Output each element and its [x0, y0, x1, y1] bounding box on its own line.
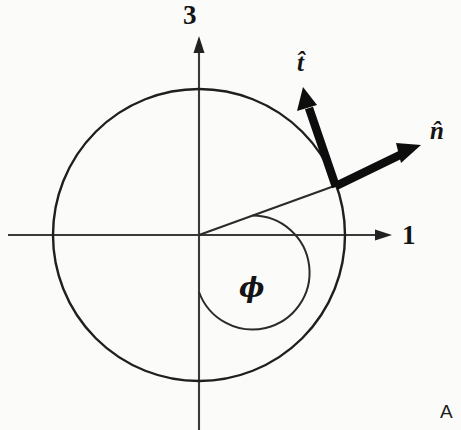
panel-letter-label: A [440, 402, 453, 421]
vector-label-tangent: t̂ [297, 50, 304, 75]
axis-label-horizontal: 1 [402, 222, 416, 249]
figure-canvas [0, 0, 461, 430]
vector-normal [336, 143, 421, 186]
vector-normal-shaft [336, 153, 404, 186]
figure-panel: 3 1 t̂ n̂ ϕ A [0, 0, 461, 430]
axis-horizontal-arrowhead [375, 230, 392, 241]
axis-vertical-arrowhead [194, 36, 205, 53]
vector-label-normal: n̂ [430, 118, 444, 143]
radius-line [199, 185, 337, 235]
vector-tangent-shaft [309, 108, 336, 187]
vector-tangent [297, 87, 336, 187]
axis-label-vertical: 3 [183, 2, 197, 29]
angle-label-phi: ϕ [239, 274, 264, 301]
vector-tangent-arrowhead [297, 87, 317, 111]
vector-normal-arrowhead [396, 143, 421, 163]
